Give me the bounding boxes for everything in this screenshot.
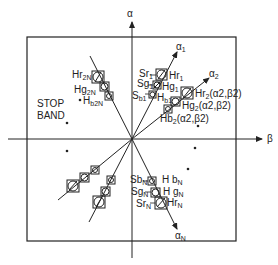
label-SbN: SbN xyxy=(130,175,147,186)
label-SrN: SrN xyxy=(136,199,151,210)
diagram-canvas xyxy=(0,0,278,265)
label-Hr2N: Hr2N xyxy=(72,70,92,81)
label-SgN: SgN xyxy=(131,187,148,198)
ray-label-alpha-N: αN xyxy=(175,231,186,242)
label-Hg1: Hg1 xyxy=(162,82,179,93)
label-HbN: H bN xyxy=(162,175,183,186)
ray-label-alpha-1: α1 xyxy=(176,42,186,53)
label-Hb2: Hb2(α2,β2) xyxy=(160,114,209,125)
label-Hr2: Hr2(α2,β2) xyxy=(195,89,242,100)
alpha-axis-label: α xyxy=(127,9,133,19)
ray-label-alpha-2: α2 xyxy=(209,69,219,80)
stop-band-label: STOP BAND xyxy=(37,98,65,122)
label-Hb2N: Hb2N xyxy=(83,96,103,107)
stop-band-line-2: BAND xyxy=(37,110,65,122)
label-Sg1: Sg1 xyxy=(137,79,153,90)
label-Hb1: Hb1 xyxy=(157,93,172,104)
beta-axis-label: β xyxy=(267,134,273,144)
stop-band-line-1: STOP xyxy=(37,98,65,110)
ray-lower-left-2 xyxy=(89,139,132,222)
label-Hg2: Hg2(α2,β2) xyxy=(182,101,231,112)
ray-lower-left-1 xyxy=(58,139,132,200)
label-Sb1: Sb1 xyxy=(132,91,146,102)
label-HrN: HrN xyxy=(167,198,183,209)
